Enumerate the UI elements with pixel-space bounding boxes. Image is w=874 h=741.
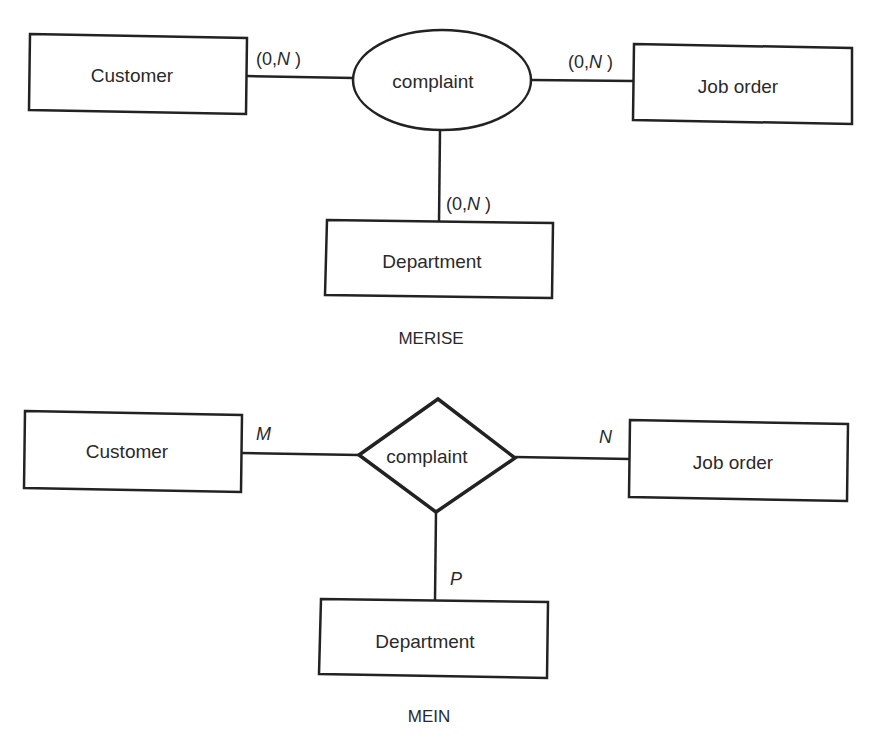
mein-diagram: Customer complaint Job order Department … [24, 399, 848, 726]
mein-joborder-connector [515, 457, 630, 459]
merise-customer-label: Customer [91, 65, 174, 86]
merise-complaint-label: complaint [392, 71, 474, 92]
mein-department-cardinality: P [450, 569, 462, 589]
merise-joborder-entity[interactable]: Job order [633, 44, 852, 124]
merise-customer-connector [247, 76, 354, 78]
mein-customer-cardinality: M [256, 424, 271, 444]
mein-customer-label: Customer [86, 441, 169, 462]
mein-joborder-entity[interactable]: Job order [629, 420, 848, 501]
mein-department-entity[interactable]: Department [319, 599, 548, 678]
merise-joborder-label: Job order [698, 76, 779, 97]
mein-customer-connector [242, 453, 359, 455]
merise-customer-cardinality: (0,N ) [256, 49, 301, 69]
mein-department-connector [435, 512, 436, 600]
mein-complaint-label: complaint [386, 446, 468, 467]
merise-department-cardinality: (0,N ) [446, 194, 491, 214]
merise-diagram: Customer complaint Job order Department … [29, 30, 852, 348]
merise-joborder-cardinality: (0,N ) [568, 52, 613, 72]
er-diagram-canvas: Customer complaint Job order Department … [0, 0, 874, 741]
mein-customer-entity[interactable]: Customer [24, 411, 242, 492]
merise-complaint-relationship[interactable]: complaint [353, 30, 531, 130]
merise-joborder-connector [531, 80, 634, 81]
merise-department-entity[interactable]: Department [325, 220, 553, 298]
mein-complaint-relationship[interactable]: complaint [359, 399, 515, 512]
merise-department-label: Department [382, 251, 482, 272]
mein-joborder-label: Job order [693, 452, 774, 473]
merise-customer-entity[interactable]: Customer [29, 34, 247, 114]
mein-caption: MEIN [408, 707, 451, 726]
mein-joborder-cardinality: N [599, 427, 613, 447]
mein-department-label: Department [375, 631, 475, 652]
merise-caption: MERISE [398, 329, 463, 348]
merise-department-connector [439, 130, 440, 222]
